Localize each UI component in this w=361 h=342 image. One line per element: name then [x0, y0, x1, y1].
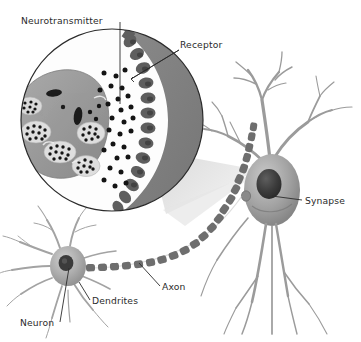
synapse-contact — [241, 191, 250, 201]
presynaptic-neuron — [0, 204, 116, 338]
label-axon: Axon — [162, 281, 186, 292]
vesicle-cluster — [44, 141, 76, 163]
label-neurotransmitter: Neurotransmitter — [21, 15, 103, 26]
label-dendrites: Dendrites — [92, 295, 138, 306]
label-synapse: Synapse — [305, 195, 345, 206]
leader-dendrites — [79, 282, 90, 300]
diagram-canvas: Neurotransmitter Receptor Synapse Axon D… — [0, 0, 361, 342]
synapse-illustration: Neurotransmitter Receptor Synapse Axon D… — [0, 0, 361, 342]
leader-axon — [139, 263, 160, 286]
vesicle-cluster — [21, 121, 51, 143]
vesicle-cluster — [72, 156, 100, 177]
vesicle-cluster — [77, 122, 105, 144]
label-neuron: Neuron — [20, 317, 54, 328]
label-receptor: Receptor — [180, 39, 222, 50]
